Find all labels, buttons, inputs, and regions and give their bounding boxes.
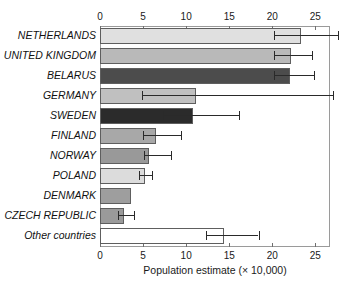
bar-row: POLAND — [0, 166, 350, 186]
error-bar-cap — [152, 171, 153, 180]
bar — [100, 68, 290, 84]
error-bar-cap — [314, 71, 315, 80]
error-bar-cap — [274, 71, 275, 80]
category-label: POLAND — [0, 169, 96, 182]
bar — [100, 148, 149, 164]
x-tick-label-top: 15 — [224, 11, 235, 22]
x-axis-label: Population estimate (× 10,000) — [100, 264, 330, 276]
bar — [100, 88, 196, 104]
bar-row: Other countries — [0, 226, 350, 246]
category-label: BELARUS — [0, 69, 96, 82]
x-tick-label-top: 20 — [267, 11, 278, 22]
x-tick-label-bottom: 5 — [140, 250, 146, 261]
x-tick-label-top: 5 — [140, 11, 146, 22]
error-bar — [139, 175, 152, 176]
x-tick-label-bottom: 20 — [267, 250, 278, 261]
bar-row: NETHERLANDS — [0, 26, 350, 46]
category-label: SWEDEN — [0, 109, 96, 122]
category-label: FINLAND — [0, 129, 96, 142]
bar-row: BELARUS — [0, 66, 350, 86]
bar — [100, 108, 193, 124]
error-bar — [163, 115, 239, 116]
x-tick-label-bottom: 0 — [97, 250, 103, 261]
error-bar — [144, 155, 171, 156]
bar-row: SWEDEN — [0, 106, 350, 126]
error-bar-cap — [206, 231, 207, 240]
bar — [100, 28, 301, 44]
bar — [100, 48, 291, 64]
error-bar-cap — [143, 131, 144, 140]
category-label: Other countries — [0, 229, 96, 242]
error-bar-cap — [239, 111, 240, 120]
error-bar-cap — [274, 51, 275, 60]
category-label: DENMARK — [0, 189, 96, 202]
bar — [100, 188, 131, 204]
bar-row: CZECH REPUBLIC — [0, 206, 350, 226]
error-bar-cap — [312, 51, 313, 60]
error-bar-cap — [142, 91, 143, 100]
error-bar-cap — [139, 171, 140, 180]
error-bar-cap — [118, 211, 119, 220]
error-bar-cap — [333, 91, 334, 100]
category-label: NETHERLANDS — [0, 29, 96, 42]
x-tick-label-top: 25 — [310, 11, 321, 22]
chart-figure: 0510152025 0510152025 NETHERLANDSUNITED … — [0, 0, 350, 286]
error-bar-cap — [134, 211, 135, 220]
error-bar-cap — [181, 131, 182, 140]
error-bar — [274, 75, 314, 76]
error-bar-cap — [259, 231, 260, 240]
x-tick-label-bottom: 10 — [181, 250, 192, 261]
error-bar — [143, 135, 181, 136]
x-tick-label-bottom: 25 — [310, 250, 321, 261]
x-tick-label-bottom: 15 — [224, 250, 235, 261]
x-tick-label-top: 0 — [97, 11, 103, 22]
bar — [100, 128, 156, 144]
category-label: CZECH REPUBLIC — [0, 209, 96, 222]
error-bar-cap — [274, 31, 275, 40]
category-label: NORWAY — [0, 149, 96, 162]
error-bar-cap — [163, 111, 164, 120]
error-bar — [118, 215, 134, 216]
error-bar — [142, 95, 332, 96]
category-label: GERMANY — [0, 89, 96, 102]
error-bar-cap — [171, 151, 172, 160]
bar — [100, 208, 124, 224]
error-bar — [274, 35, 338, 36]
bar-row: FINLAND — [0, 126, 350, 146]
bar-row: GERMANY — [0, 86, 350, 106]
bar-row: NORWAY — [0, 146, 350, 166]
error-bar-cap — [338, 31, 339, 40]
bar-row: DENMARK — [0, 186, 350, 206]
bar-row: UNITED KINGDOM — [0, 46, 350, 66]
error-bar — [274, 55, 312, 56]
x-tick-label-top: 10 — [181, 11, 192, 22]
error-bar-cap — [144, 151, 145, 160]
category-label: UNITED KINGDOM — [0, 49, 96, 62]
error-bar — [206, 235, 259, 236]
